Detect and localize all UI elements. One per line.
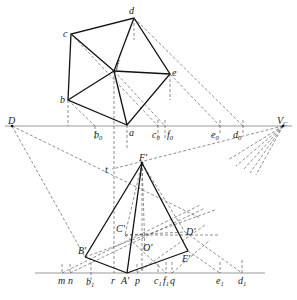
perspective-pyramid [85,163,188,273]
label-O: O' [143,242,153,253]
label-d1: d1 [238,275,246,287]
label-c1: c1 [154,275,162,287]
label-d: d [129,5,135,16]
label-B: B' [78,245,87,256]
rays-from-Vc [112,126,283,175]
label-C: C' [116,223,126,234]
rays-from-D [12,126,200,257]
label-e: e [172,67,177,78]
label-c0: c0 [152,129,160,141]
label-E: E' [181,253,191,264]
label-d0: d0 [233,129,242,141]
label-f1: f1 [163,275,169,287]
label-Vc: VC [277,115,288,127]
label-D-prime: D' [185,226,196,237]
label-f: f [116,59,120,70]
label-p: p [134,275,140,286]
label-b0: b0 [94,129,103,141]
label-n: n [68,275,73,286]
label-c: c [63,28,68,39]
label-t: t [105,164,108,175]
label-F: F' [138,152,148,163]
label-e1: e1 [216,275,224,287]
label-A: A' [120,275,130,286]
diagram-svg: d c f e b a D VC b0 c0 f0 e0 d0 F' t C' … [0,0,297,300]
label-m: m [58,275,65,286]
perspective-construction [62,163,242,280]
plan-pentagon [68,18,170,125]
label-b1: b1 [86,276,94,288]
label-e0: e0 [211,129,219,141]
label-a: a [129,127,134,138]
label-q: q [170,275,175,286]
label-b: b [60,94,65,105]
label-D: D [7,115,16,126]
perspective-diagram: d c f e b a D VC b0 c0 f0 e0 d0 F' t C' … [0,0,297,300]
label-f0: f0 [167,129,174,141]
label-r: r [111,275,115,286]
